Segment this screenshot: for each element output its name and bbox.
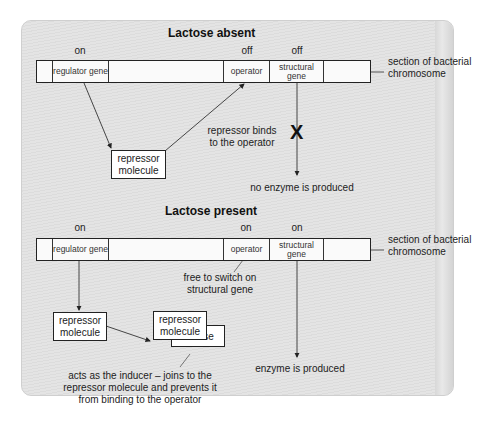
chromosome-strip-present: regulator gene operator structural gene — [36, 238, 371, 261]
chromosome-label: section of bacterial chromosome — [388, 234, 478, 258]
enzyme-produced-label: enzyme is produced — [250, 363, 350, 375]
segment-blank — [37, 239, 53, 260]
regulator-gene-segment: regulator gene — [53, 239, 109, 260]
chromosome-label: section of bacterial chromosome — [388, 56, 478, 80]
bound-repressor-box: repressor molecule — [153, 311, 207, 340]
structural-state: off — [277, 45, 317, 56]
operator-state: on — [226, 222, 266, 233]
segment-blank — [37, 61, 53, 82]
free-to-switch-label: free to switch on structural gene — [175, 272, 265, 296]
no-enzyme-label: no enzyme is produced — [242, 182, 362, 194]
repressor-binds-label: repressor binds to the operator — [202, 125, 282, 149]
operator-segment: operator — [224, 239, 270, 260]
lactose-present-title: Lactose present — [165, 204, 257, 218]
segment-blank — [109, 239, 224, 260]
regulator-gene-segment: regulator gene — [53, 61, 109, 82]
repressor-molecule-box: repressor molecule — [53, 312, 107, 341]
structural-state: on — [277, 222, 317, 233]
chromosome-strip-absent: regulator gene operator structural gene — [36, 60, 371, 83]
structural-gene-segment: structural gene — [270, 239, 324, 260]
block-mark: X — [290, 121, 303, 144]
inducer-label: acts as the inducer – joins to the repre… — [60, 370, 220, 406]
operator-state: off — [227, 45, 267, 56]
structural-gene-segment: structural gene — [270, 61, 324, 82]
segment-blank — [324, 61, 370, 82]
lactose-absent-title: Lactose absent — [168, 26, 255, 40]
regulator-state: on — [60, 45, 100, 56]
segment-blank — [109, 61, 224, 82]
segment-blank — [324, 239, 370, 260]
operator-segment: operator — [224, 61, 270, 82]
regulator-state: on — [60, 222, 100, 233]
repressor-molecule-box: repressor molecule — [111, 150, 166, 179]
